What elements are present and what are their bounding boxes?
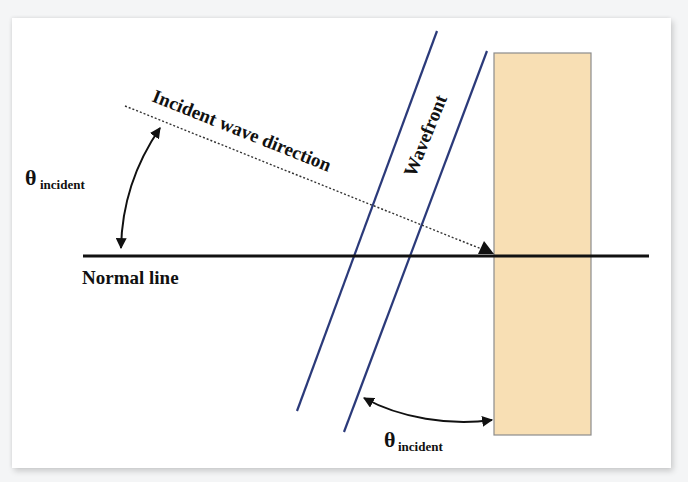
wavefront-line-2 [344, 51, 487, 432]
wavefront-line-1 [297, 31, 437, 411]
theta-label-left: θ incident [25, 165, 85, 192]
theta-subscript: incident [398, 439, 443, 454]
incident-ray-arrowhead-icon [478, 241, 494, 254]
theta-symbol: θ [25, 165, 36, 190]
theta-symbol: θ [384, 427, 395, 452]
angle-arc-bottom [364, 398, 492, 422]
theta-subscript: incident [40, 177, 85, 192]
barrier-block [494, 53, 591, 435]
normal-line-label: Normal line [82, 267, 179, 288]
theta-label-bottom: θ incident [384, 427, 443, 454]
incident-direction-label: Incident wave direction [150, 85, 335, 175]
refraction-diagram: Incident wave direction Wavefront Normal… [0, 0, 688, 482]
angle-arc-left [121, 128, 160, 248]
